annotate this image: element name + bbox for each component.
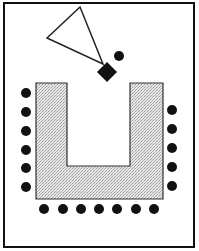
seat: [21, 145, 31, 155]
seat: [167, 162, 177, 172]
seat: [94, 204, 104, 214]
presenter-seat: [114, 51, 124, 61]
seat: [131, 204, 141, 214]
seat: [167, 143, 177, 153]
seat: [21, 163, 31, 173]
seat: [167, 124, 177, 134]
seat: [112, 204, 122, 214]
seats-left-row: [21, 88, 31, 192]
projector-triangle: [47, 7, 103, 64]
presenter-diamond: [97, 62, 117, 82]
seating-diagram: [0, 0, 199, 251]
seat: [39, 204, 49, 214]
u-shaped-table: [36, 83, 163, 199]
seat: [21, 88, 31, 98]
seats-right-row: [167, 105, 177, 191]
seat: [21, 107, 31, 117]
seat: [21, 182, 31, 192]
seat: [167, 181, 177, 191]
seat: [149, 204, 159, 214]
seats-bottom-row: [39, 204, 159, 214]
seat: [76, 204, 86, 214]
seat: [21, 126, 31, 136]
seat: [167, 105, 177, 115]
seat: [58, 204, 68, 214]
